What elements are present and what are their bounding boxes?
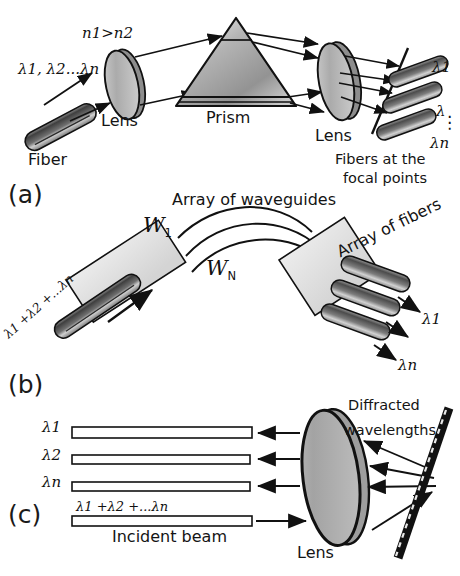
label-incident-sum: λ1 +λ2 +...λn [76,500,168,513]
ray-arrow [247,33,318,44]
label-out-vdots-a: ⋮ [441,114,459,131]
label-input-wavelengths-a: λ1, λ2...λn [18,62,99,77]
beam-bar-n [72,482,250,491]
label-lens-input-a: Lens [101,113,138,129]
output-fiber-2 [381,80,444,115]
label-array-of-waveguides: Array of waveguides [172,192,336,208]
label-focal-note-2: focal points [343,171,427,186]
label-index-condition: n1>n2 [82,26,133,41]
beam-bar-incident [72,516,252,526]
ray-arrow [288,92,322,97]
ray-arrow [364,441,432,470]
label-lens-c: Lens [297,545,334,561]
ray-arrow [135,36,222,57]
label-out-lambdan-b: λn [398,358,417,373]
label-fiber: Fiber [28,152,67,168]
panel-letter-c: (c) [8,502,41,527]
input-fiber-a [22,100,100,153]
ray-arrow [290,103,324,112]
beam-bar-1 [72,427,252,438]
output-arrow [398,297,420,312]
output-arrow [374,345,396,360]
panel-letter-a: (a) [8,182,43,207]
label-out-lambdan-c: λn [42,475,61,490]
label-lens-output-a: Lens [315,128,352,144]
beam-bar-2 [72,455,250,464]
prism [176,18,296,106]
label-focal-note-1: Fibers at the [335,152,426,167]
label-w-first: W1 [143,215,172,240]
label-out-lambda1-b: λ1 [422,312,441,327]
label-out-lambda1-c: λ1 [42,420,61,435]
label-out-lambda1-a: λ1 [432,60,451,75]
label-out-lambdan-a: λn [430,136,449,151]
label-incident-beam: Incident beam [112,529,227,545]
label-out-lambda2-c: λ2 [42,448,61,463]
panel-letter-b: (b) [8,372,43,397]
label-diffracted-1: Diffracted [348,398,420,413]
label-diffracted-2: wavelengths [344,423,436,438]
label-w-last: WN [206,258,236,283]
label-prism: Prism [206,110,250,126]
